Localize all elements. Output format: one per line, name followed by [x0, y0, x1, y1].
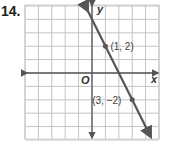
y-axis-label: y: [96, 3, 104, 15]
point-label: (3, −2): [92, 95, 121, 106]
x-axis-label: x: [150, 73, 158, 85]
graph: (1, 2)(3, −2) y x O: [0, 0, 171, 149]
data-point: [103, 44, 108, 49]
origin-label: O: [81, 74, 90, 86]
data-point: [130, 97, 135, 102]
point-label: (1, 2): [110, 41, 133, 52]
